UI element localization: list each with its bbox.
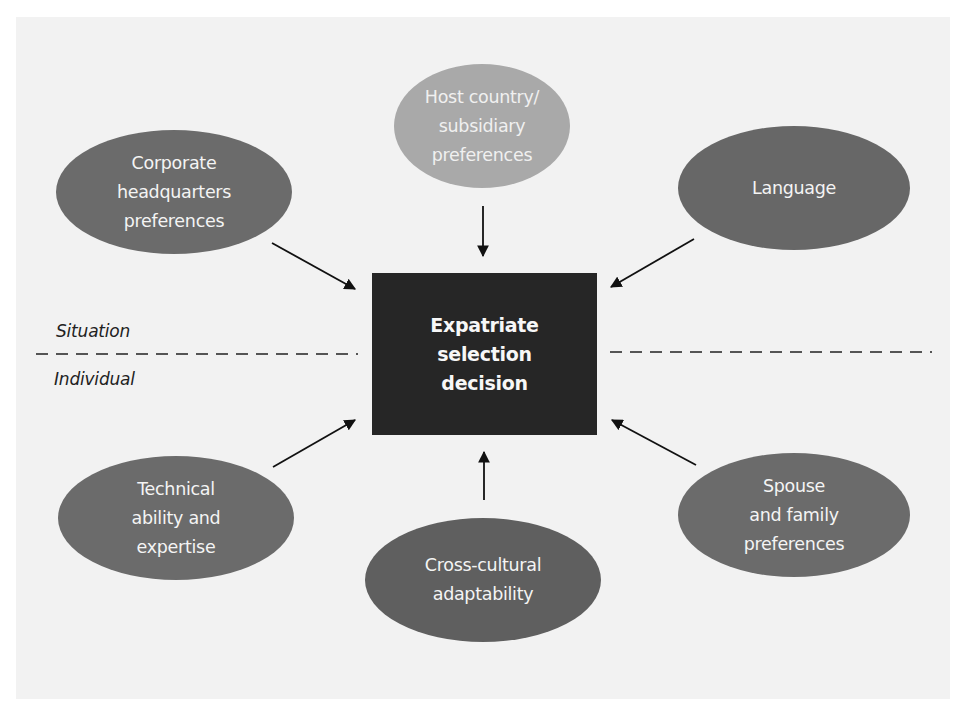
node-crosscultural-label: Cross-cultural adaptability — [365, 518, 601, 642]
node-spouse-label: Spouse and family preferences — [678, 453, 910, 577]
node-language-label: Language — [678, 126, 910, 250]
individual-label: Individual — [54, 369, 135, 389]
node-corporate-label: Corporate headquarters preferences — [56, 130, 292, 254]
node-technical-label: Technical ability and expertise — [58, 456, 294, 580]
situation-label: Situation — [56, 321, 130, 341]
node-host-label: Host country/ subsidiary preferences — [394, 64, 570, 188]
center-box-label: Expatriate selection decision — [372, 273, 597, 435]
